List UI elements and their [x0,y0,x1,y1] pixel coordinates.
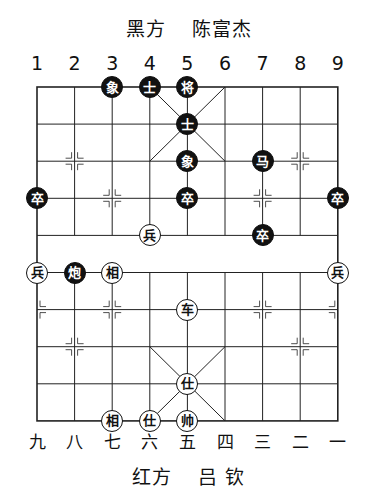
file-label-8: 二 [285,428,315,453]
file-label-6: 四 [210,428,240,453]
red-side-title: 红方吕 钦 [0,462,377,489]
file-label-5: 五 [172,428,202,453]
file-label-7: 三 [248,428,278,453]
black-piece: 卒 [327,187,349,209]
black-piece: 士 [139,76,161,98]
file-numbers-bottom: 九八七六五四三二一 [0,428,377,452]
black-piece: 炮 [64,262,86,284]
red-piece: 车 [176,299,198,321]
red-piece: 兵 [327,262,349,284]
red-side-label: 红方 [132,462,172,489]
red-piece: 兵 [26,262,48,284]
file-label-2: 八 [60,428,90,453]
file-label-4: 六 [135,428,165,453]
file-label-9: 一 [323,428,353,453]
black-piece: 马 [252,150,274,172]
black-piece: 卒 [252,224,274,246]
red-piece: 相 [101,262,123,284]
file-label-1: 九 [22,428,52,453]
red-player-name: 吕 钦 [198,462,245,489]
file-label-3: 七 [97,428,127,453]
